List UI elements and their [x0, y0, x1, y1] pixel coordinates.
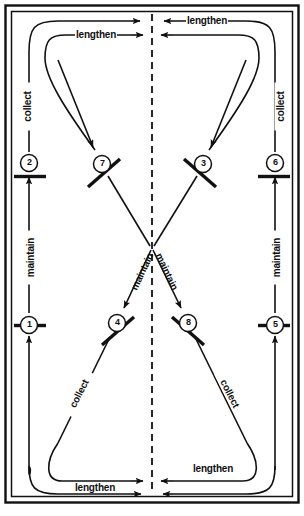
edge-label-lengthen-top-right: lengthen [186, 15, 228, 26]
node-label-1: 1 [26, 319, 33, 330]
edge-label-maintain-left: maintain [25, 231, 36, 285]
bottom-right-inner-loop [161, 443, 256, 481]
node-label-4: 4 [114, 317, 121, 328]
node-label-2: 2 [26, 157, 33, 168]
top-left-inner-loop [45, 35, 143, 150]
edge-label-lengthen-bottom-right: lengthen [192, 463, 234, 474]
right-outer-rail [164, 21, 275, 470]
node-label-6: 6 [272, 157, 279, 168]
edge-label-collect-left-outer: collect [22, 83, 33, 131]
node-label-8: 8 [185, 317, 192, 328]
diagram-canvas: 2 1 6 5 7 3 4 8 lengthen lengthen length… [0, 0, 304, 516]
edge-label-collect-right-outer: collect [275, 83, 286, 131]
left-outer-rail [29, 21, 140, 470]
top-right-inner-loop [161, 35, 259, 150]
node-label-5: 5 [272, 319, 279, 330]
cross-right-down [154, 176, 197, 246]
node-label-7: 7 [99, 158, 106, 169]
bottom-diagonal-from-8 [195, 337, 247, 443]
bottom-left-inner-loop [49, 443, 143, 481]
edge-label-maintain-right: maintain [271, 231, 282, 285]
edge-label-lengthen-bottom-left: lengthen [74, 482, 116, 493]
edge-label-lengthen-top-left: lengthen [75, 29, 117, 40]
node-label-3: 3 [200, 158, 207, 169]
cross-left-down [108, 176, 150, 246]
